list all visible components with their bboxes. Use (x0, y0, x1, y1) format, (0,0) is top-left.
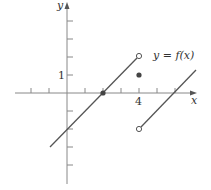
y-tick-label: 1 (58, 69, 65, 82)
curve-piece-right (141, 70, 196, 127)
filled-point-2-0 (100, 90, 105, 95)
open-point-4-2 (136, 53, 141, 58)
y-axis-label: y (56, 0, 64, 12)
y-axis-arrow-icon (65, 2, 70, 9)
open-point-4-neg2 (136, 126, 141, 131)
function-label: y = f(x) (152, 49, 194, 62)
x-tick-label: 4 (135, 95, 142, 108)
filled-point-4-1 (136, 72, 141, 77)
x-axis-label: x (191, 94, 198, 107)
function-graph: y x 1 4 y = f(x) (0, 0, 211, 190)
